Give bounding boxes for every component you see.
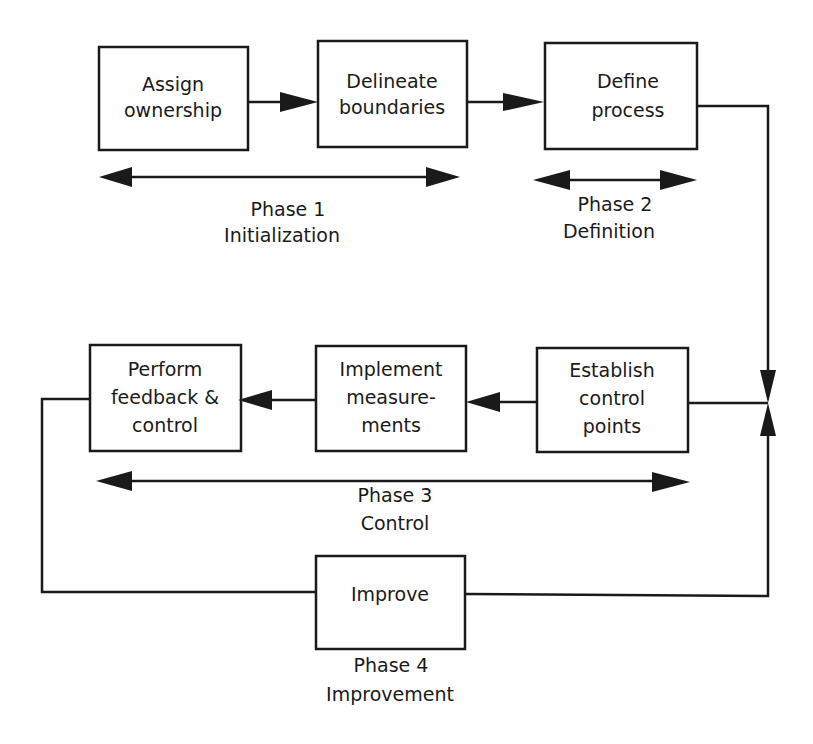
svg-text:process: process <box>591 99 664 121</box>
box-define-line-2: process <box>591 99 664 121</box>
phase4-name: Improvement <box>326 683 454 705</box>
box-assign-line-1: Assign <box>142 73 204 95</box>
box-establish-line-1: Establish <box>569 359 655 381</box>
phase3-name: Control <box>361 512 430 534</box>
box-establish-control-points: Establish control points <box>537 348 688 452</box>
svg-text:feedback &: feedback & <box>111 386 219 408</box>
box-implement-line-2: measure- <box>346 386 436 408</box>
arrow-delineate-to-define <box>467 93 544 111</box>
svg-text:ments: ments <box>361 414 421 436</box>
box-define-line-1: Define <box>597 70 659 92</box>
phase3-title: Phase 3 <box>358 484 433 506</box>
svg-text:Phase 2: Phase 2 <box>578 193 653 215</box>
box-implement-line-1: Implement <box>340 358 443 380</box>
svg-text:Initialization: Initialization <box>224 224 340 246</box>
svg-text:Improvement: Improvement <box>326 683 454 705</box>
svg-text:Phase 4: Phase 4 <box>354 654 429 676</box>
svg-text:Definition: Definition <box>563 220 655 242</box>
box-perform-line-1: Perform <box>128 358 203 380</box>
box-implement-line-3: ments <box>361 414 421 436</box>
box-assign-line-2: ownership <box>124 99 222 121</box>
box-establish-line-2: control <box>579 387 645 409</box>
box-improve-line-1: Improve <box>351 583 429 605</box>
svg-text:control: control <box>579 387 645 409</box>
box-perform-line-3: control <box>132 414 198 436</box>
svg-text:Phase 1: Phase 1 <box>251 198 326 220</box>
arrow-establish-to-implement <box>466 392 537 412</box>
arrow-assign-to-delineate <box>248 92 318 112</box>
box-delineate-boundaries: Delineate boundaries <box>318 41 467 147</box>
phase2-name: Definition <box>563 220 655 242</box>
phase2-title: Phase 2 <box>578 193 653 215</box>
box-assign-ownership: Assign ownership <box>99 47 248 150</box>
svg-text:ownership: ownership <box>124 99 222 121</box>
svg-text:Improve: Improve <box>351 583 429 605</box>
phase2-span-arrow <box>533 170 697 190</box>
svg-text:Perform: Perform <box>128 358 203 380</box>
svg-text:control: control <box>132 414 198 436</box>
svg-text:Implement: Implement <box>340 358 443 380</box>
box-delineate-line-1: Delineate <box>346 70 437 92</box>
box-implement-measurements: Implement measure- ments <box>316 346 466 451</box>
phase1-title: Phase 1 <box>251 198 326 220</box>
svg-text:Phase 3: Phase 3 <box>358 484 433 506</box>
svg-text:Control: Control <box>361 512 430 534</box>
connector-define-to-junction <box>697 106 776 403</box>
svg-text:measure-: measure- <box>346 386 436 408</box>
box-improve: Improve <box>316 556 465 649</box>
box-perform-line-2: feedback & <box>111 386 219 408</box>
svg-text:points: points <box>583 415 641 437</box>
phase1-span-arrow <box>99 167 460 187</box>
svg-text:Define: Define <box>597 70 659 92</box>
box-perform-feedback-control: Perform feedback & control <box>90 345 241 451</box>
phase1-name: Initialization <box>224 224 340 246</box>
svg-text:boundaries: boundaries <box>339 96 445 118</box>
process-diagram: Assign ownership Delineate boundaries De… <box>0 0 813 744</box>
box-establish-line-3: points <box>583 415 641 437</box>
svg-text:Delineate: Delineate <box>346 70 437 92</box>
svg-text:Establish: Establish <box>569 359 655 381</box>
svg-text:Assign: Assign <box>142 73 204 95</box>
arrow-implement-to-perform <box>238 390 316 410</box>
box-delineate-line-2: boundaries <box>339 96 445 118</box>
phase4-title: Phase 4 <box>354 654 429 676</box>
box-define-process: Define process <box>545 43 697 149</box>
